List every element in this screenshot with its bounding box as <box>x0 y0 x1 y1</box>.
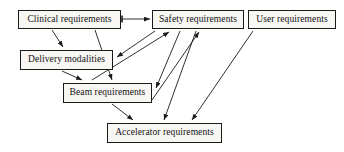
edge-delivery-to-beam <box>62 71 82 80</box>
edge-user-to-accelerator <box>192 31 253 120</box>
node-delivery-modalities[interactable]: Delivery modalities <box>20 50 113 70</box>
node-clinical-requirements[interactable]: Clinical requirements <box>18 10 121 29</box>
node-label: Delivery modalities <box>25 55 108 65</box>
node-label: Accelerator requirements <box>112 128 217 138</box>
node-accelerator-requirements[interactable]: Accelerator requirements <box>107 123 222 143</box>
requirements-diagram: Clinical requirements Safety requirement… <box>0 0 344 152</box>
node-beam-requirements[interactable]: Beam requirements <box>63 83 152 103</box>
edge-beam-to-accelerator <box>112 104 133 120</box>
edge-clinical-to-delivery <box>52 30 63 47</box>
node-safety-requirements[interactable]: Safety requirements <box>152 10 244 29</box>
node-label: Beam requirements <box>67 88 149 98</box>
node-label: User requirements <box>253 15 331 25</box>
node-user-requirements[interactable]: User requirements <box>248 10 336 29</box>
node-label: Clinical requirements <box>24 15 114 25</box>
node-label: Safety requirements <box>156 15 240 25</box>
edge-safety-to-beam <box>156 31 180 88</box>
